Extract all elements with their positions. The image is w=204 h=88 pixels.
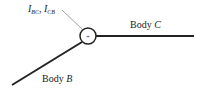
body-b-label: Body B (42, 74, 72, 84)
joint-label: IBC, ICB (28, 4, 55, 15)
body-c-prefix: Body (130, 19, 154, 30)
body-b-prefix: Body (42, 73, 66, 84)
subscript-bc: BC (31, 9, 39, 15)
subscript-cb: CB (47, 9, 55, 15)
body-c-label: Body C (130, 20, 161, 30)
body-c-name: C (154, 19, 161, 30)
body-b-name: B (66, 73, 72, 84)
leader-line (62, 10, 82, 29)
joint-symbol: + (86, 33, 90, 41)
